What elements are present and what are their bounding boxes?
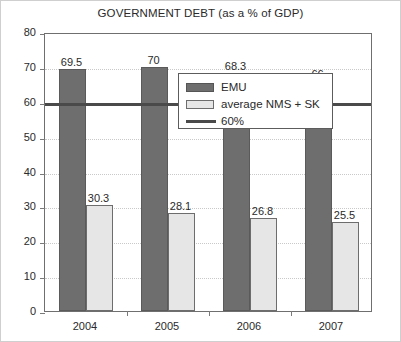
y-axis-tick [40, 278, 45, 279]
x-axis-label-2007: 2007 [290, 320, 372, 332]
chart-screenshot: GOVERNMENT DEBT (as a % of GDP) 01020304… [0, 0, 401, 342]
chart-legend: EMU average NMS + SK 60% [178, 73, 333, 129]
y-axis-tick [40, 208, 45, 209]
x-axis-label-2006: 2006 [208, 320, 290, 332]
bar-value-label: 26.8 [239, 205, 286, 217]
y-axis-tick [40, 174, 45, 175]
light-bar-swatch-icon [186, 100, 214, 109]
y-axis-tick [40, 34, 45, 35]
bar-average-nms-sk-2005 [168, 213, 195, 311]
x-axis-tick [209, 311, 210, 316]
y-axis-tick [40, 243, 45, 244]
y-axis-label: 40 [0, 167, 36, 178]
y-axis-label: 10 [0, 271, 36, 282]
legend-item-threshold: 60% [186, 113, 332, 129]
bar-value-label: 25.5 [321, 209, 368, 221]
legend-label: average NMS + SK [221, 98, 320, 111]
x-axis-label-2005: 2005 [126, 320, 208, 332]
legend-label: 60% [221, 115, 244, 128]
y-axis-label: 60 [0, 97, 36, 108]
legend-label: EMU [221, 81, 247, 94]
x-axis-label-2004: 2004 [44, 320, 126, 332]
bar-value-label: 68.3 [212, 60, 259, 72]
legend-item-emu: EMU [186, 79, 332, 95]
bar-value-label: 28.1 [157, 200, 204, 212]
dark-bar-swatch-icon [186, 83, 214, 92]
y-axis-label: 70 [0, 62, 36, 73]
bar-value-label: 69.5 [48, 56, 95, 68]
bar-average-nms-sk-2006 [250, 218, 277, 311]
y-axis-tick [40, 69, 45, 70]
y-axis-tick [40, 139, 45, 140]
bar-value-label: 30.3 [75, 192, 122, 204]
y-axis-tick [40, 104, 45, 105]
y-axis-label: 30 [0, 201, 36, 212]
threshold-line-swatch-icon [186, 117, 214, 126]
chart-title: GOVERNMENT DEBT (as a % of GDP) [0, 7, 401, 19]
y-axis-label: 80 [0, 27, 36, 38]
x-axis-tick [291, 311, 292, 316]
y-axis-label: 50 [0, 132, 36, 143]
bar-average-nms-sk-2004 [86, 205, 113, 311]
y-axis-label: 0 [0, 306, 36, 317]
y-axis-tick [40, 313, 45, 314]
bar-value-label: 70 [130, 54, 177, 66]
y-axis-label: 20 [0, 236, 36, 247]
legend-item-nms: average NMS + SK [186, 96, 332, 112]
bar-average-nms-sk-2007 [332, 222, 359, 311]
x-axis-tick [127, 311, 128, 316]
